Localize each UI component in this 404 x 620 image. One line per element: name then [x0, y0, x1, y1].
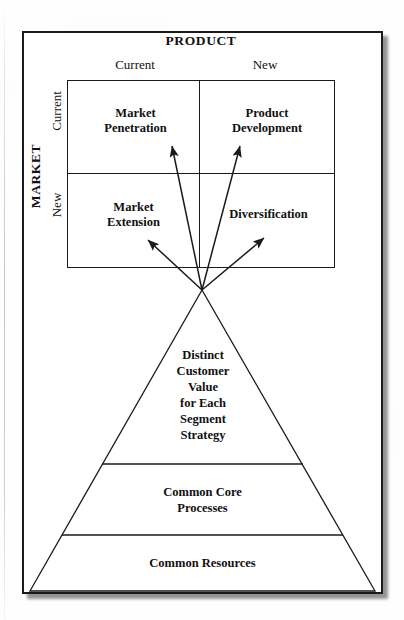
diagram-canvas: PRODUCT Current New MARKET Current New M… — [0, 0, 404, 620]
arrow-to-market-penetration — [172, 146, 202, 290]
pyramid-tier-distinct-customer-value: Distinct Customer Value for Each Segment… — [147, 347, 259, 443]
arrow-to-product-development — [202, 146, 240, 290]
pyramid-tier-common-core-processes: Common Core Processes — [125, 484, 280, 516]
diagram-vector-layer — [0, 0, 404, 620]
pyramid-tier-common-resources: Common Resources — [110, 555, 295, 571]
arrow-to-diversification — [202, 238, 264, 290]
connector-arrows — [148, 146, 264, 290]
